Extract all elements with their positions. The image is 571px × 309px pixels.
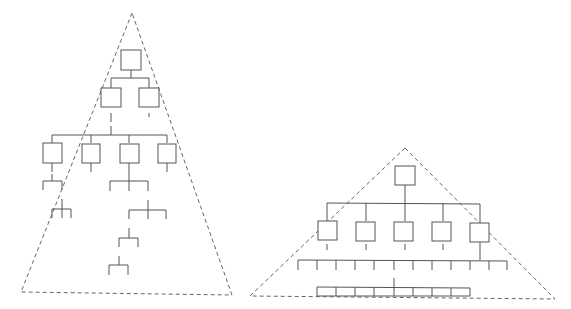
tall-node-l3-c bbox=[120, 144, 139, 163]
tall-node-l2-a bbox=[101, 88, 121, 107]
diagram-canvas bbox=[0, 0, 571, 309]
flat-node-l2-d bbox=[432, 222, 451, 241]
flat-node-l2-a bbox=[318, 221, 337, 240]
tall-node-l3-d bbox=[158, 144, 176, 163]
flat-node-l2-c bbox=[394, 222, 413, 241]
flat-node-l2-b bbox=[356, 222, 375, 241]
tall-node-l1 bbox=[121, 50, 141, 70]
tall-node-l2-b bbox=[139, 88, 159, 107]
tall-node-l3-b bbox=[82, 144, 100, 163]
tall-hierarchy bbox=[21, 13, 232, 295]
flat-level3-ticks bbox=[298, 260, 507, 270]
tall-node-l3-a bbox=[43, 143, 62, 163]
flat-node-l1 bbox=[395, 166, 415, 185]
flat-hierarchy bbox=[250, 148, 555, 299]
flat-node-l2-e bbox=[470, 223, 489, 242]
